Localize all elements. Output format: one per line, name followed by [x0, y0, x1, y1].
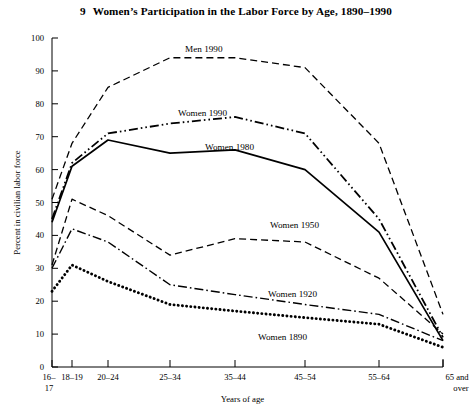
- chart-plot-area: 0102030405060708090100 16–1718–1920–2425…: [0, 0, 472, 414]
- series-annotation-labels: Men 1990Women 1990Women 1980Women 1950Wo…: [178, 44, 319, 342]
- x-tick-label: 18–19: [61, 372, 82, 382]
- x-tick-label: 55–64: [368, 372, 390, 382]
- line-chart-svg: 0102030405060708090100 16–1718–1920–2425…: [0, 0, 472, 414]
- series-line-women-1920: [52, 229, 443, 341]
- x-tick-label-cont: 17: [45, 383, 54, 393]
- series-line-women-1890: [52, 265, 443, 347]
- figure-page: 9Women’s Participation in the Labor Forc…: [0, 0, 472, 414]
- series-label-women-1950: Women 1950: [270, 220, 319, 230]
- axis-lines: [52, 38, 443, 367]
- x-tick-label: 65 and: [445, 372, 469, 382]
- series-label-women-1980: Women 1980: [205, 142, 254, 152]
- x-tick-label-cont: over: [453, 383, 468, 393]
- y-tick-label: 20: [35, 296, 44, 306]
- y-tick-label: 10: [35, 329, 44, 339]
- axis-titles: Percent in civilian labor forceYears of …: [12, 150, 264, 404]
- y-tick-label: 50: [35, 198, 44, 208]
- y-tick-label: 0: [40, 362, 44, 372]
- y-tick-label: 100: [31, 33, 44, 43]
- series-label-men-1990: Men 1990: [185, 44, 223, 54]
- y-tick-label: 40: [35, 230, 44, 240]
- y-tick-label: 90: [35, 66, 44, 76]
- y-tick-label: 60: [35, 165, 44, 175]
- series-label-women-1990: Women 1990: [178, 108, 227, 118]
- x-axis-title: Years of age: [221, 394, 265, 404]
- y-tick-label: 70: [35, 132, 44, 142]
- series-line-women-1950: [52, 199, 443, 334]
- x-tick-label: 16–: [43, 372, 57, 382]
- x-tick-label: 35–44: [224, 372, 246, 382]
- x-tick-label: 20–24: [97, 372, 119, 382]
- y-axis-title: Percent in civilian labor force: [12, 150, 22, 255]
- x-tick-label: 25–34: [159, 372, 181, 382]
- y-tick-label: 80: [35, 99, 44, 109]
- series-group: [52, 58, 443, 348]
- axes-group: [52, 38, 443, 367]
- y-tick-label: 30: [35, 263, 44, 273]
- x-tick-labels: 16–1718–1920–2425–3435–4445–5455–6465 an…: [43, 360, 470, 393]
- y-tick-labels: 0102030405060708090100: [31, 33, 58, 372]
- series-label-women-1890: Women 1890: [258, 332, 307, 342]
- series-line-women-1980: [52, 140, 443, 341]
- x-tick-label: 45–54: [294, 372, 316, 382]
- series-line-men-1990: [52, 58, 443, 315]
- series-label-women-1920: Women 1920: [268, 289, 317, 299]
